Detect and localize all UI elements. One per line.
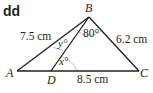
side-label-ab: 7.5 cm xyxy=(20,31,51,43)
vertex-label-d: D xyxy=(47,74,56,86)
angle-label-80: 80° xyxy=(83,28,99,40)
vertex-label-a: A xyxy=(6,67,13,79)
part-label: dd xyxy=(3,4,20,18)
vertex-label-c: C xyxy=(140,67,148,79)
side-label-dc: 8.5 cm xyxy=(77,74,108,86)
side-ab xyxy=(17,17,89,71)
angle-label-y: y° xyxy=(58,38,67,49)
segment-bd xyxy=(51,17,89,71)
vertex-label-b: B xyxy=(85,2,92,14)
angle-label-x: x° xyxy=(59,56,68,67)
side-label-bc: 6.2 cm xyxy=(116,34,147,46)
